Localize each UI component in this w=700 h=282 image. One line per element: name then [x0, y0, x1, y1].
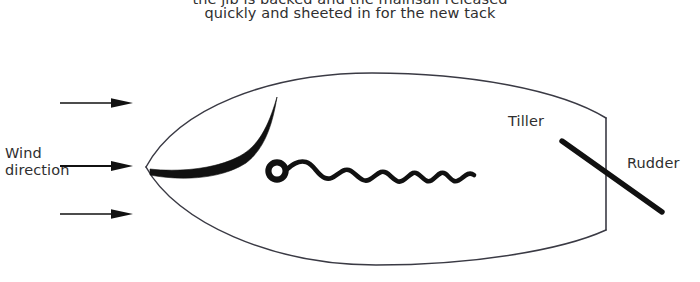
tiller-rudder-bar — [562, 141, 662, 212]
diagram-canvas — [0, 0, 700, 282]
tiller-label: Tiller — [508, 113, 544, 130]
mast-circle — [268, 162, 285, 179]
wind-arrow-bottom — [60, 209, 133, 219]
wind-direction-label: Wind direction — [5, 145, 69, 179]
wind-arrow-top — [60, 98, 133, 108]
wind-arrow-middle — [60, 161, 133, 171]
luffing-mainsail-wavy-line — [286, 162, 474, 182]
rudder-label: Rudder — [627, 155, 680, 172]
sailing-tack-diagram: the jib is backed and the mainsail relea… — [0, 0, 700, 282]
